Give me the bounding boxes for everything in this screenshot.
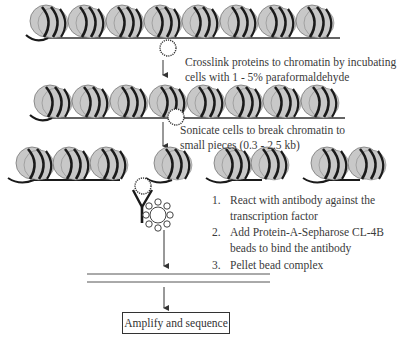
transcription-factor-icon <box>160 40 176 56</box>
crosslink-line-2: cells with 1 - 5% paraformaldehyde <box>185 71 349 83</box>
ip-step-2: 2.Add Protein-A-Sepharose CL-4B beads to… <box>212 225 384 256</box>
immunocomplex <box>133 178 173 231</box>
chromatin-row-2 <box>30 85 345 125</box>
sonicate-line-2: small pieces (0.3 - 2.5 kb) <box>180 139 300 151</box>
chromatin-row-1 <box>26 5 340 56</box>
sonicate-label: Sonicate cells to break chromatin to sma… <box>180 123 345 153</box>
crosslink-line-1: Crosslink proteins to chromatin by incub… <box>185 56 396 68</box>
amplify-sequence-box: Amplify and sequence <box>122 312 230 334</box>
crosslink-label: Crosslink proteins to chromatin by incub… <box>185 55 396 85</box>
bead-icon <box>143 199 173 231</box>
transcription-factor-icon <box>135 178 151 194</box>
sonicate-line-1: Sonicate cells to break chromatin to <box>180 124 345 136</box>
ip-step-1: 1.React with antibody against the transc… <box>212 193 375 224</box>
chip-diagram <box>0 0 398 344</box>
ip-step-3: 3.Pellet bead complex <box>212 258 323 274</box>
